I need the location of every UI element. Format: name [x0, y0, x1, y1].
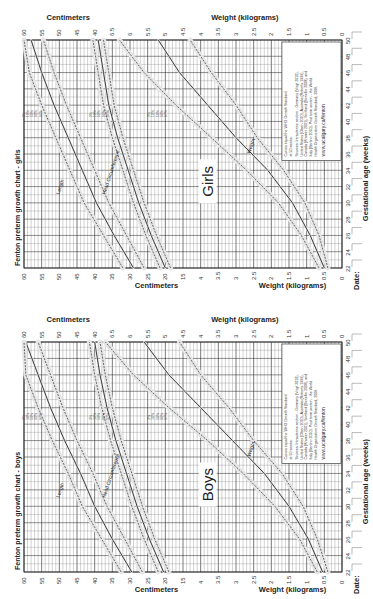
- svg-text:50: 50: [56, 273, 62, 280]
- svg-text:3: 3: [233, 580, 239, 584]
- source-note: Curves equal the WHO Growth Standardat 5…: [282, 344, 341, 464]
- top-axis: 60555045406.565.554.543.532.521.510.50: [21, 27, 345, 36]
- svg-text:Canada (Kramer 2001), Scotland: Canada (Kramer 2001), Scotland (Bonellie…: [304, 71, 308, 157]
- svg-text:1.5: 1.5: [286, 27, 292, 36]
- svg-text:45: 45: [74, 331, 80, 338]
- svg-text:3.5: 3.5: [215, 575, 221, 584]
- svg-text:2.5: 2.5: [251, 27, 257, 36]
- svg-text:1.5: 1.5: [286, 329, 292, 338]
- svg-text:2: 2: [268, 580, 274, 584]
- gestational-age-label: Gestational age (weeks): [361, 438, 370, 524]
- svg-text:46: 46: [345, 372, 351, 379]
- svg-text:1.5: 1.5: [286, 575, 292, 584]
- svg-text:Italy (Bertino 2010). Post ter: Italy (Bertino 2010). Post term section …: [309, 381, 313, 460]
- svg-text:0: 0: [339, 276, 345, 280]
- svg-text:0.5: 0.5: [321, 271, 327, 280]
- svg-text:97%: 97%: [39, 412, 43, 420]
- svg-text:30: 30: [345, 503, 351, 510]
- svg-text:1: 1: [304, 276, 310, 280]
- svg-text:35: 35: [109, 577, 115, 584]
- top-axis-label-cm: Centimeters: [46, 315, 89, 324]
- svg-text:22: 22: [345, 569, 351, 576]
- svg-text:30: 30: [127, 273, 133, 280]
- svg-text:15: 15: [180, 273, 186, 280]
- svg-text:Canada (Kramer 2001), Scotland: Canada (Kramer 2001), Scotland (Bonellie…: [304, 374, 308, 460]
- svg-text:36: 36: [345, 454, 351, 461]
- svg-text:3: 3: [233, 32, 239, 36]
- svg-text:25: 25: [145, 577, 151, 584]
- svg-text:44: 44: [345, 86, 351, 93]
- svg-text:2.5: 2.5: [251, 329, 257, 338]
- svg-text:60: 60: [21, 577, 27, 584]
- svg-text:6.5: 6.5: [109, 27, 115, 36]
- svg-text:97%: 97%: [164, 109, 168, 117]
- svg-text:3: 3: [233, 334, 239, 338]
- gestational-age-axis: 222426283032343638404244464850: [345, 32, 362, 272]
- svg-text:30: 30: [345, 200, 351, 207]
- svg-text:60: 60: [21, 29, 27, 36]
- svg-text:3.5: 3.5: [215, 329, 221, 338]
- svg-text:0: 0: [339, 32, 345, 36]
- bottom-axis-label-kg: Weight (kilograms): [259, 281, 327, 290]
- svg-text:48: 48: [345, 53, 351, 60]
- svg-text:26: 26: [345, 536, 351, 543]
- bottom-axis-label-cm: Centimeters: [135, 281, 178, 290]
- svg-text:20: 20: [162, 273, 168, 280]
- svg-text:0.5: 0.5: [321, 329, 327, 338]
- svg-text:42: 42: [345, 102, 351, 109]
- svg-text:44: 44: [345, 388, 351, 395]
- svg-text:35: 35: [109, 273, 115, 280]
- svg-text:2: 2: [268, 32, 274, 36]
- svg-text:3.5: 3.5: [215, 27, 221, 36]
- svg-text:24: 24: [345, 552, 351, 559]
- source-note: Curves equal the WHO Growth Standardat 5…: [282, 42, 341, 161]
- svg-text:20: 20: [162, 577, 168, 584]
- svg-text:5.5: 5.5: [145, 27, 151, 36]
- sex-label: Boys: [199, 463, 217, 507]
- boys-chart-canvas: Curves equal the WHO Growth Standardat 5…: [0, 300, 373, 599]
- svg-text:50: 50: [345, 339, 351, 346]
- svg-text:2: 2: [268, 334, 274, 338]
- girls-chart-canvas: Curves equal the WHO Growth Standardat 5…: [0, 0, 373, 300]
- chart-title: Fenton preterm growth chart - girls: [14, 149, 22, 266]
- svg-text:38: 38: [345, 134, 351, 141]
- svg-text:5: 5: [162, 334, 168, 338]
- bottom-axis: 6055504540353025201543.532.521.510.50: [21, 271, 345, 280]
- svg-text:28: 28: [345, 519, 351, 526]
- svg-text:4.5: 4.5: [180, 27, 186, 36]
- svg-text:4.5: 4.5: [180, 329, 186, 338]
- svg-text:25: 25: [145, 273, 151, 280]
- svg-text:Boys: Boys: [199, 468, 216, 501]
- svg-text:4: 4: [198, 276, 204, 280]
- date-label: Date:: [352, 271, 361, 290]
- svg-text:5: 5: [162, 32, 168, 36]
- svg-text:Sources: Intrauterine section: Sources: Intrauterine section - Germany …: [295, 375, 299, 460]
- svg-text:40: 40: [92, 29, 98, 36]
- svg-text:48: 48: [345, 355, 351, 362]
- svg-text:55: 55: [39, 331, 45, 338]
- source-url: www.ucalgary.ca/fenton: [320, 104, 326, 157]
- svg-text:at 50 weeks.: at 50 weeks.: [289, 439, 293, 459]
- svg-text:97%: 97%: [164, 412, 168, 420]
- svg-text:Italy (Bertino 2010). Post ter: Italy (Bertino 2010). Post term section …: [309, 78, 313, 157]
- svg-text:Health Organization Growth Sta: Health Organization Growth Standard, 200…: [314, 86, 318, 157]
- svg-text:5.5: 5.5: [145, 329, 151, 338]
- svg-text:Health Organization Growth Sta: Health Organization Growth Standard, 200…: [314, 389, 318, 460]
- svg-text:3: 3: [233, 276, 239, 280]
- svg-text:40: 40: [92, 331, 98, 338]
- svg-text:50: 50: [56, 577, 62, 584]
- bottom-axis: 6055504540353025201543.532.521.510.50: [21, 575, 345, 584]
- gestational-age-label: Gestational age (weeks): [361, 135, 370, 221]
- svg-text:45: 45: [74, 29, 80, 36]
- svg-text:55: 55: [39, 29, 45, 36]
- svg-text:55: 55: [39, 273, 45, 280]
- svg-text:22: 22: [345, 265, 351, 272]
- svg-text:55: 55: [39, 577, 45, 584]
- boys-growth-chart: Curves equal the WHO Growth Standardat 5…: [0, 300, 373, 599]
- svg-text:28: 28: [345, 216, 351, 223]
- svg-text:45: 45: [74, 273, 80, 280]
- svg-text:36: 36: [345, 151, 351, 158]
- svg-text:4: 4: [198, 32, 204, 36]
- svg-text:0.5: 0.5: [321, 575, 327, 584]
- svg-text:26: 26: [345, 232, 351, 239]
